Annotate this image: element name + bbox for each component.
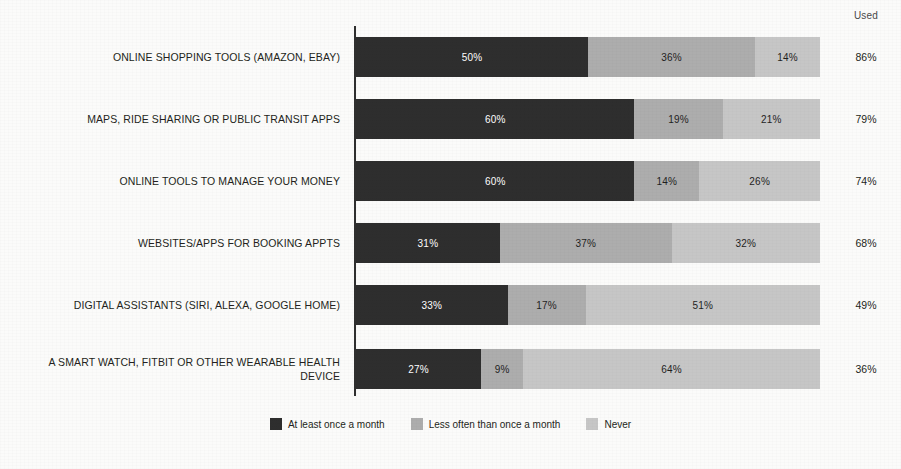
chart-row: MAPS, RIDE SHARING OR PUBLIC TRANSIT APP… (0, 88, 901, 150)
bar-segment: 36% (588, 37, 755, 77)
segment-value-label: 60% (485, 114, 506, 125)
used-value: 68% (836, 212, 896, 274)
segment-value-label: 21% (761, 114, 782, 125)
stacked-bar: 31%37%32% (356, 223, 820, 263)
category-label: ONLINE TOOLS TO MANAGE YOUR MONEY (10, 150, 340, 212)
segment-value-label: 14% (657, 176, 678, 187)
bar-segment: 26% (699, 161, 820, 201)
bar-segment: 51% (586, 285, 820, 325)
stacked-bar: 60%14%26% (356, 161, 820, 201)
legend-item: At least once a month (270, 418, 385, 430)
segment-value-label: 17% (536, 300, 557, 311)
legend-swatch-at-least-once-a-month (270, 418, 282, 430)
bar-segment: 21% (723, 99, 820, 139)
chart-legend: At least once a monthLess often than onc… (0, 418, 901, 430)
stacked-bar: 50%36%14% (356, 37, 820, 77)
bar-segment: 33% (356, 285, 508, 325)
segment-value-label: 33% (421, 300, 442, 311)
segment-value-label: 27% (408, 364, 429, 375)
bar-segment: 9% (481, 349, 523, 389)
bar-segment: 14% (634, 161, 699, 201)
segment-value-label: 37% (575, 238, 596, 249)
legend-item: Less often than once a month (411, 418, 561, 430)
chart-row: A SMART WATCH, FITBIT OR OTHER WEARABLE … (0, 338, 901, 400)
used-value: 49% (836, 274, 896, 336)
segment-value-label: 64% (661, 364, 682, 375)
legend-swatch-never (586, 418, 598, 430)
chart-row: WEBSITES/APPS FOR BOOKING APPTS31%37%32%… (0, 212, 901, 274)
category-axis-line (354, 26, 356, 396)
used-value: 79% (836, 88, 896, 150)
legend-label: At least once a month (288, 419, 385, 430)
segment-value-label: 31% (418, 238, 439, 249)
used-value: 36% (836, 338, 896, 400)
category-label: MAPS, RIDE SHARING OR PUBLIC TRANSIT APP… (10, 88, 340, 150)
legend-item: Never (586, 418, 631, 430)
used-column-header: Used (836, 10, 896, 21)
chart-row: ONLINE SHOPPING TOOLS (AMAZON, EBAY)50%3… (0, 26, 901, 88)
segment-value-label: 36% (661, 52, 682, 63)
bar-segment: 27% (356, 349, 481, 389)
segment-value-label: 26% (749, 176, 770, 187)
segment-value-label: 14% (777, 52, 798, 63)
stacked-bar: 33%17%51% (356, 285, 820, 325)
chart-row: ONLINE TOOLS TO MANAGE YOUR MONEY60%14%2… (0, 150, 901, 212)
bar-segment: 17% (508, 285, 586, 325)
stacked-bar: 60%19%21% (356, 99, 820, 139)
legend-swatch-less-often-than-once-a-month (411, 418, 423, 430)
bar-segment: 14% (755, 37, 820, 77)
segment-value-label: 60% (485, 176, 506, 187)
bar-segment: 31% (356, 223, 500, 263)
segment-value-label: 51% (693, 300, 714, 311)
segment-value-label: 9% (495, 364, 510, 375)
bar-segment: 50% (356, 37, 588, 77)
legend-label: Never (604, 419, 631, 430)
chart-row: DIGITAL ASSISTANTS (SIRI, ALEXA, GOOGLE … (0, 274, 901, 336)
segment-value-label: 32% (735, 238, 756, 249)
segment-value-label: 50% (462, 52, 483, 63)
legend-label: Less often than once a month (429, 419, 561, 430)
segment-value-label: 19% (668, 114, 689, 125)
category-label: A SMART WATCH, FITBIT OR OTHER WEARABLE … (10, 338, 340, 400)
plot-area: ONLINE SHOPPING TOOLS (AMAZON, EBAY)50%3… (0, 26, 901, 398)
used-value: 86% (836, 26, 896, 88)
bar-segment: 32% (672, 223, 820, 263)
stacked-bar-chart: Used ONLINE SHOPPING TOOLS (AMAZON, EBAY… (0, 0, 901, 469)
used-value: 74% (836, 150, 896, 212)
category-label: ONLINE SHOPPING TOOLS (AMAZON, EBAY) (10, 26, 340, 88)
bar-segment: 37% (500, 223, 672, 263)
bar-segment: 64% (523, 349, 820, 389)
bar-segment: 60% (356, 99, 634, 139)
category-label: WEBSITES/APPS FOR BOOKING APPTS (10, 212, 340, 274)
stacked-bar: 27%9%64% (356, 349, 820, 389)
bar-segment: 60% (356, 161, 634, 201)
bar-segment: 19% (634, 99, 722, 139)
category-label: DIGITAL ASSISTANTS (SIRI, ALEXA, GOOGLE … (10, 274, 340, 336)
